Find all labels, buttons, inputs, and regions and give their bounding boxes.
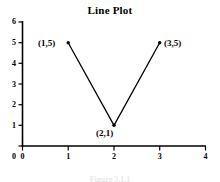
- y-tick-label-3: 3: [4, 80, 16, 89]
- x-tick-label-3: 3: [153, 152, 167, 161]
- y-tick-label-6: 6: [4, 17, 16, 26]
- x-tick-label-1: 1: [61, 152, 75, 161]
- y-tick-label-1: 1: [4, 121, 16, 130]
- y-tick-label-0: 0: [4, 152, 16, 161]
- point-label-3-5: (3,5): [164, 38, 181, 48]
- data-point-marker: [112, 124, 115, 127]
- x-tick-label-4: 4: [199, 152, 213, 161]
- data-line: [68, 43, 160, 126]
- data-point-marker: [67, 41, 70, 44]
- point-label-1-5: (1,5): [38, 38, 55, 48]
- figure-caption: Figure 3.1.1: [0, 175, 220, 182]
- data-point-marker: [158, 41, 161, 44]
- y-tick-label-2: 2: [4, 100, 16, 109]
- line-plot-figure: Line Plot 6 5: [0, 0, 220, 182]
- x-tick-label-2: 2: [107, 152, 121, 161]
- x-tick-label-0: 0: [16, 152, 30, 161]
- y-tick-label-4: 4: [4, 59, 16, 68]
- point-label-2-1: (2,1): [96, 128, 113, 138]
- y-tick-label-5: 5: [4, 38, 16, 47]
